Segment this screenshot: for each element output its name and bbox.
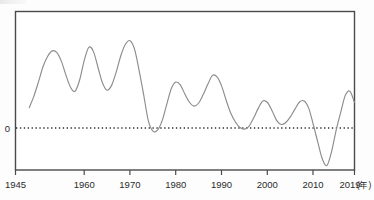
chart-canvas: 0 1945 1960 1970 1980 1990 2000 2010 201… — [0, 0, 374, 200]
x-tick-label-1980: 1980 — [165, 179, 186, 190]
x-axis-unit-label: (年) — [357, 180, 372, 190]
x-axis-ticks — [16, 170, 355, 175]
y-tick-label-0: 0 — [5, 123, 10, 134]
x-tick-label-1960: 1960 — [74, 179, 95, 190]
x-tick-label-1945: 1945 — [5, 179, 26, 190]
plot-background — [16, 12, 355, 171]
line-chart: 0 1945 1960 1970 1980 1990 2000 2010 201… — [0, 0, 374, 200]
x-tick-label-1990: 1990 — [211, 179, 232, 190]
x-tick-label-2010: 2010 — [302, 179, 323, 190]
chart-screenshot: 0 1945 1960 1970 1980 1990 2000 2010 201… — [0, 0, 374, 200]
x-tick-label-2000: 2000 — [257, 179, 278, 190]
x-tick-label-1970: 1970 — [119, 179, 140, 190]
